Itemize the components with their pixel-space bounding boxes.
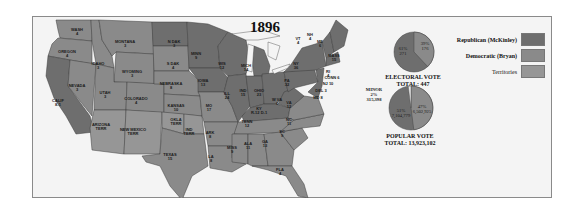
state-label: WYOMING3 — [122, 70, 142, 79]
swatch-republican — [521, 33, 545, 46]
state-label: KYR-12 D-1 — [251, 107, 267, 116]
ev-dem-label: 39%176 — [421, 41, 429, 51]
state-label: TEXAS15 — [163, 153, 176, 162]
state-label: ARK8 — [206, 131, 215, 140]
state-label: ALA11 — [244, 142, 252, 151]
swatch-democratic — [521, 49, 545, 62]
state-label: MINN9 — [191, 52, 201, 61]
state-label: COLORADO4 — [124, 97, 147, 106]
legend-territories: Territories — [492, 65, 545, 78]
state-label: NEW MEXICOTERR — [120, 128, 146, 137]
pv-caption: POPULAR VOTETOTAL: 13,923,102 — [385, 133, 436, 146]
state-label: MO17 — [206, 104, 212, 113]
state-label: IND15 — [240, 89, 247, 98]
state-label: KANSAS10 — [168, 104, 185, 113]
legend-label: Republican (McKinley) — [457, 37, 517, 43]
state-label: FLA4 — [276, 168, 284, 177]
state-label: IOWA13 — [198, 79, 209, 88]
state-label: NY36 — [293, 62, 299, 71]
state-label: VA12 — [286, 101, 291, 110]
state-label: MD 8 — [313, 96, 323, 100]
state-label: N DAK3 — [168, 40, 181, 49]
state-label: IDAHO3 — [92, 62, 105, 71]
state-label: GA13 — [262, 140, 268, 149]
pv-minor-label: MINOR2%315,398 — [366, 87, 382, 102]
lake-huron — [268, 42, 280, 60]
state-label: PA32 — [284, 79, 289, 88]
state-label: ME6 — [317, 40, 323, 49]
legend-republican: Republican (McKinley) — [457, 33, 545, 46]
state-label: WASH4 — [71, 28, 83, 37]
state-label: MICH14 — [241, 64, 251, 73]
state-label: NH4 — [307, 33, 313, 42]
state-label: NJ 10 — [323, 82, 334, 86]
swatch-territories — [521, 65, 545, 78]
state-label: S DAK4 — [167, 62, 179, 71]
state-wyoming — [114, 52, 154, 84]
state-label: UTAH3 — [100, 91, 111, 100]
state-label: MISS9 — [227, 146, 237, 155]
state-label: ARIZONATERR — [92, 123, 110, 132]
state-label: TENN12 — [242, 120, 253, 129]
pv-rep-label: 51%7,104,779 — [392, 108, 410, 118]
state-label: MONTANA3 — [115, 40, 135, 49]
state-label: WIS12 — [218, 62, 226, 71]
state-label: OKLATERR — [170, 118, 181, 127]
state-label: ILL24 — [224, 92, 230, 101]
ev-rep-label: 61%271 — [399, 46, 407, 56]
state-label: SC9 — [279, 130, 285, 139]
legend-label: Democratic (Bryan) — [466, 53, 517, 59]
state-label: NEVADA3 — [69, 84, 86, 93]
state-label: DEL 3 — [315, 89, 326, 93]
legend-label: Territories — [492, 69, 517, 75]
state-label: CALIF8-1 — [52, 99, 64, 108]
state-label: NC11 — [286, 118, 292, 127]
state-label: OHIO23 — [254, 89, 264, 98]
map-title: 1896 — [250, 19, 280, 36]
state-label: NEBRASKA8 — [160, 82, 183, 91]
state-label: MASS15 — [328, 54, 340, 63]
state-label: VT4 — [295, 37, 300, 46]
state-label: LA8 — [208, 155, 213, 164]
state-label: CONN 6 — [324, 76, 339, 80]
state-mich — [252, 46, 270, 76]
state-label: W VA6 — [272, 98, 282, 107]
state-label: OREGON4 — [58, 50, 76, 59]
legend-democratic: Democratic (Bryan) — [466, 49, 545, 62]
pv-dem-label: 47%6,502,925 — [413, 104, 431, 114]
state-label: INDTERR — [184, 128, 195, 137]
